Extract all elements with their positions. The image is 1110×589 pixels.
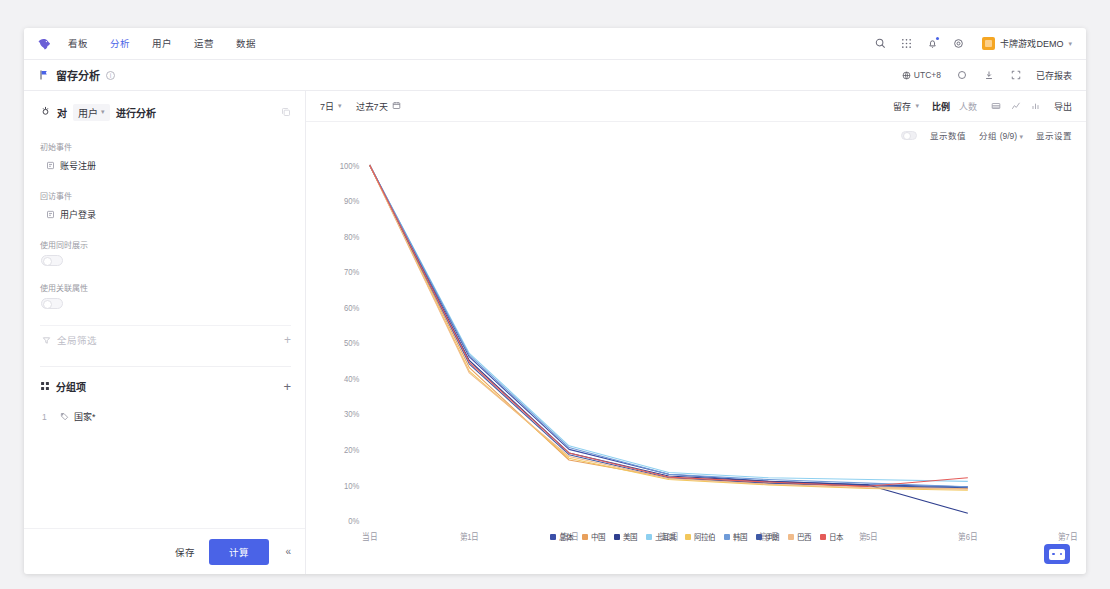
legend-item[interactable]: 土耳其: [646, 531, 676, 542]
chat-assistant-button[interactable]: [1044, 544, 1070, 564]
chart-series-line: [370, 165, 968, 486]
segment-count[interactable]: 人数: [959, 100, 977, 113]
avatar: [982, 37, 995, 50]
group-section-label: 分组项: [56, 379, 86, 394]
simultaneous-display-toggle[interactable]: [41, 255, 63, 266]
download-icon[interactable]: [982, 69, 995, 82]
analysis-object-select[interactable]: 用户 ▾: [73, 104, 110, 121]
top-navigation-bar: 看板 分析 用户 运营 数据: [24, 28, 1086, 60]
group-section-title: 分组项: [40, 379, 86, 394]
nav-item-users[interactable]: 用户: [152, 39, 172, 49]
group-row-chip[interactable]: 国家*: [60, 410, 96, 423]
expand-icon[interactable]: [1009, 69, 1022, 82]
show-values-toggle[interactable]: [901, 131, 917, 140]
bar-chart-icon[interactable]: [1030, 101, 1041, 112]
timezone-selector[interactable]: UTC+8: [902, 70, 941, 80]
legend-label: 美国: [623, 531, 637, 542]
return-event-label: 回访事件: [40, 190, 291, 201]
chevron-down-icon: ▾: [338, 102, 342, 110]
bird-logo-icon[interactable]: [36, 36, 52, 52]
legend-label: 日本: [829, 531, 843, 542]
flag-icon: [40, 70, 49, 80]
apps-grid-icon[interactable]: [900, 37, 913, 50]
nav-item-data[interactable]: 数据: [236, 39, 256, 49]
nav-item-operations[interactable]: 运营: [194, 39, 214, 49]
analysis-object-value: 用户: [78, 105, 98, 120]
group-select-value: 分组 (9/9): [979, 131, 1017, 141]
global-filter-label: 全局筛选: [57, 333, 97, 347]
chart-series-line: [370, 165, 968, 489]
refresh-icon[interactable]: [955, 69, 968, 82]
notification-dot: [936, 37, 939, 40]
export-button[interactable]: 导出: [1054, 100, 1072, 113]
nav-item-analysis[interactable]: 分析: [110, 39, 130, 49]
line-chart-icon[interactable]: [1010, 101, 1021, 112]
calendar-icon: [392, 101, 401, 112]
group-row-label: 国家*: [74, 410, 96, 423]
segment-ratio[interactable]: 比例: [932, 100, 950, 113]
legend-item[interactable]: 巴西: [788, 531, 811, 542]
table-view-icon[interactable]: [990, 101, 1001, 112]
calculate-button[interactable]: 计算: [209, 539, 269, 565]
nav-item-dashboard[interactable]: 看板: [68, 39, 88, 49]
collapse-panel-button[interactable]: «: [283, 546, 293, 557]
group-select[interactable]: 分组 (9/9) ▾: [979, 129, 1023, 141]
chart-series-line: [370, 165, 968, 487]
related-attribute-toggle[interactable]: [41, 298, 63, 309]
simultaneous-display-label: 使用同时展示: [40, 239, 291, 250]
chart-legend: 总体中国美国土耳其阿拉伯韩国伊朗巴西日本: [306, 531, 1086, 542]
legend-item[interactable]: 伊朗: [756, 531, 779, 542]
info-circle-icon[interactable]: i: [106, 71, 115, 80]
search-icon[interactable]: [874, 37, 887, 50]
analysis-object-title: 对 用户 ▾ 进行分析: [40, 104, 156, 121]
target-icon: [40, 106, 51, 119]
add-group-button[interactable]: +: [283, 380, 291, 393]
legend-item[interactable]: 总体: [550, 531, 573, 542]
legend-item[interactable]: 日本: [820, 531, 843, 542]
initial-event-value[interactable]: 账号注册: [42, 157, 291, 174]
saved-reports-button[interactable]: 已存报表: [1036, 69, 1072, 82]
metric-mode-segment: 比例 人数: [932, 100, 977, 113]
y-axis-tick-label: 40%: [344, 373, 360, 384]
settings-gear-icon[interactable]: [952, 37, 965, 50]
date-range-selector[interactable]: 过去7天: [356, 100, 401, 113]
y-axis-tick-label: 80%: [344, 231, 360, 242]
related-attribute-label: 使用关联属性: [40, 282, 291, 293]
y-axis-tick-label: 60%: [344, 302, 360, 313]
y-axis-tick-label: 10%: [344, 480, 360, 491]
legend-item[interactable]: 中国: [582, 531, 605, 542]
legend-item[interactable]: 阿拉伯: [685, 531, 715, 542]
chart-toolbar-right: 留存 ▾ 比例 人数: [893, 100, 1072, 113]
period-value: 7日: [320, 100, 334, 113]
return-event-value[interactable]: 用户登录: [42, 206, 291, 223]
chart-panel: 7日 ▾ 过去7天 留存 ▾: [306, 91, 1086, 574]
y-axis-tick-label: 30%: [344, 409, 360, 420]
initial-event-text: 账号注册: [60, 159, 96, 172]
initial-event-label: 初始事件: [40, 141, 291, 152]
group-row-index: 1: [42, 412, 50, 422]
metric-selector[interactable]: 留存 ▾: [893, 100, 919, 113]
return-event-text: 用户登录: [60, 208, 96, 221]
account-menu[interactable]: 卡牌游戏DEMO ▾: [982, 37, 1072, 50]
period-selector[interactable]: 7日 ▾: [320, 100, 342, 113]
copy-icon[interactable]: [281, 103, 291, 121]
save-button[interactable]: 保存: [175, 545, 195, 559]
y-axis-tick-label: 20%: [344, 444, 360, 455]
event-icon: [46, 161, 55, 170]
left-panel-footer: 保存 计算 «: [24, 528, 305, 574]
y-axis-tick-label: 0%: [348, 515, 360, 526]
notification-bell-icon[interactable]: [926, 37, 939, 50]
global-filter-row[interactable]: 全局筛选 +: [40, 325, 291, 354]
legend-swatch: [788, 534, 794, 540]
y-axis-tick-label: 50%: [344, 338, 360, 349]
legend-item[interactable]: 美国: [614, 531, 637, 542]
display-settings-button[interactable]: 显示设置: [1036, 129, 1072, 141]
analysis-object-row: 对 用户 ▾ 进行分析: [40, 103, 291, 121]
legend-item[interactable]: 韩国: [724, 531, 747, 542]
chart-series-line: [370, 165, 968, 488]
legend-swatch: [724, 534, 730, 540]
legend-swatch: [646, 534, 652, 540]
add-global-filter-button[interactable]: +: [284, 334, 291, 346]
y-axis-tick-label: 70%: [344, 267, 360, 278]
metric-value: 留存: [893, 100, 911, 113]
